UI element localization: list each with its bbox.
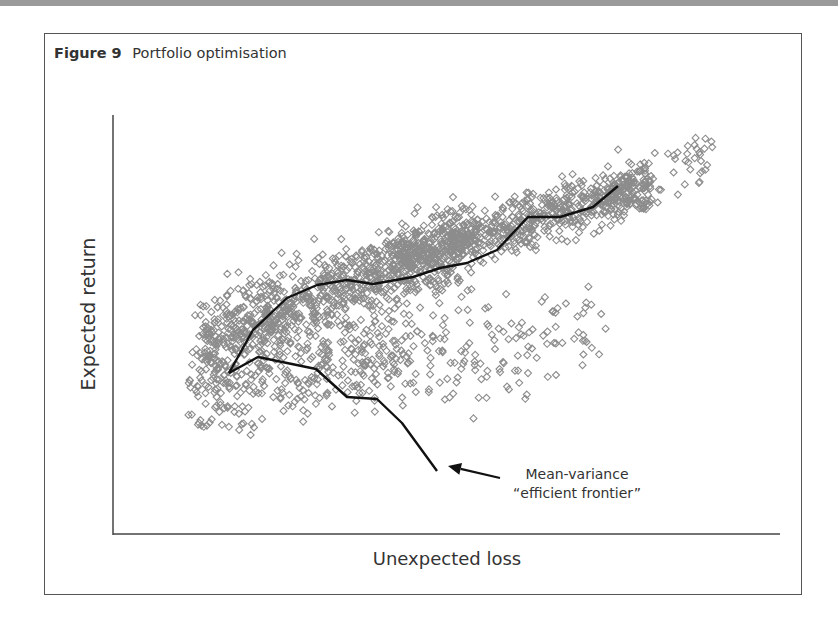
- annotation-line-1: Mean-variance: [513, 465, 641, 484]
- diamond-markers: [185, 134, 716, 438]
- annotation-arrow: [448, 463, 500, 478]
- x-axis-label: Unexpected loss: [373, 548, 521, 569]
- annotation-line-2: “efficient frontier”: [513, 484, 641, 503]
- y-axis-label: Expected return: [77, 238, 99, 391]
- chart-plot-area: [0, 0, 838, 628]
- frontier-annotation: Mean-variance “efficient frontier”: [513, 465, 641, 503]
- scatter-points: [185, 134, 716, 438]
